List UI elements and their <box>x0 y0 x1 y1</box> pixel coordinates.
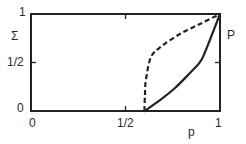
series-sigma-dashed-curve <box>144 14 220 111</box>
y-axis-label-sigma: Σ <box>11 30 18 42</box>
y-tick-label-1: 1 <box>19 6 26 18</box>
y-tick-label-0: 0 <box>17 102 24 114</box>
right-axis-label-P: P <box>227 29 235 41</box>
x-tick-label-0: 0 <box>29 117 36 129</box>
x-tick-label-1: 1 <box>215 117 222 129</box>
x-tick-label-half: 1/2 <box>117 117 134 129</box>
series-P-solid-curve <box>144 14 220 111</box>
y-tick-label-half: 1/2 <box>7 56 24 68</box>
x-axis-label-p: p <box>188 126 195 138</box>
